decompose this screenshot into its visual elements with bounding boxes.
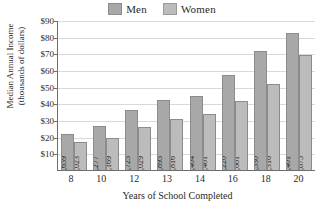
y-axis-title-line-1: Median Annual Income — [5, 0, 16, 141]
x-axis-tick-label: 8 — [68, 173, 73, 184]
y-axis-title-line-2: (thousands of dollars) — [16, 0, 27, 141]
x-axis-tick-label: 12 — [129, 173, 139, 184]
y-axis-tick-label: $30 — [41, 117, 55, 126]
bar-value-label: 26,029 — [138, 156, 145, 170]
y-axis-tick-label: $20 — [41, 133, 55, 142]
y-axis-tick-labels: $10$20$30$40$50$60$70$80$90 — [26, 21, 54, 171]
x-axis-tick-slot: 12 — [129, 173, 139, 187]
y-axis-tick-label: $60 — [41, 67, 55, 76]
legend-label-women: Women — [181, 4, 216, 15]
bar-men[interactable]: 21,659 — [61, 134, 74, 170]
bar-value-label: 57,220 — [222, 156, 229, 170]
bar-women[interactable]: 51,316 — [267, 84, 280, 170]
bar-men[interactable]: 82,401 — [286, 33, 299, 170]
bar-value-label: 26,277 — [93, 156, 100, 170]
bar-men[interactable]: 35,725 — [125, 110, 138, 170]
bar-group: 57,22041,681 — [222, 21, 248, 170]
x-axis-tick-slot: 14 — [195, 173, 205, 187]
bar-men[interactable]: 71,530 — [254, 51, 267, 170]
bar-value-label: 41,681 — [235, 156, 242, 170]
bar-men[interactable]: 41,895 — [157, 100, 170, 170]
legend-swatch-men — [108, 3, 122, 15]
bar-value-label: 21,659 — [61, 156, 68, 170]
bar-value-label: 68,875 — [299, 156, 306, 170]
bar-women[interactable]: 33,481 — [203, 114, 216, 170]
y-axis-tick-label: $70 — [41, 50, 55, 59]
bar-value-label: 44,404 — [190, 156, 197, 170]
bar-value-label: 35,725 — [125, 156, 132, 170]
y-axis-tick-label: $40 — [41, 100, 55, 109]
bar-group: 35,72526,029 — [125, 21, 151, 170]
bar-women[interactable]: 68,875 — [299, 55, 312, 170]
bar-women[interactable]: 26,029 — [138, 127, 151, 170]
bar-value-label: 82,401 — [286, 156, 293, 170]
bar-group: 26,27719,169 — [93, 21, 119, 170]
y-axis-tick-label: $80 — [41, 33, 55, 42]
x-axis-title: Years of School Completed — [40, 190, 315, 201]
x-axis-tick-slot: 13 — [162, 173, 172, 187]
x-axis-tick-slot: 8 — [68, 173, 73, 187]
bar-group: 41,89530,816 — [157, 21, 183, 170]
bar-chart: Men Women Median Annual Income (thousand… — [0, 0, 324, 208]
bar-value-label: 30,816 — [170, 156, 177, 170]
x-axis-tick-slot: 18 — [261, 173, 271, 187]
bar-value-label: 17,023 — [74, 156, 81, 170]
x-axis-tick-label: 20 — [294, 173, 304, 184]
x-axis-tick-label: 14 — [195, 173, 205, 184]
bar-group: 21,65917,023 — [61, 21, 87, 170]
x-axis-tick-slot: 20 — [294, 173, 304, 187]
x-axis-tick-label: 10 — [96, 173, 106, 184]
bar-value-label: 33,481 — [203, 156, 210, 170]
bar-men[interactable]: 26,277 — [93, 126, 106, 170]
bar-group: 82,40168,875 — [286, 21, 312, 170]
bar-value-label: 41,895 — [157, 156, 164, 170]
x-axis-tick-label: 18 — [261, 173, 271, 184]
x-axis-tick-slot: 10 — [96, 173, 106, 187]
bar-group: 71,53051,316 — [254, 21, 280, 170]
y-axis-tick-label: $90 — [41, 17, 55, 26]
legend-swatch-women — [163, 3, 177, 15]
plot-area: 21,65917,02326,27719,16935,72526,02941,8… — [57, 21, 315, 171]
bar-value-label: 51,316 — [267, 156, 274, 170]
x-axis-tick-label: 13 — [162, 173, 172, 184]
y-axis-tick-label: $50 — [41, 83, 55, 92]
bar-women[interactable]: 30,816 — [170, 119, 183, 170]
x-axis-tick-slot: 16 — [228, 173, 238, 187]
bar-group: 44,40433,481 — [190, 21, 216, 170]
bar-value-label: 71,530 — [254, 156, 261, 170]
legend-entry-women: Women — [163, 3, 216, 15]
bar-men[interactable]: 44,404 — [190, 96, 203, 170]
bar-women[interactable]: 41,681 — [235, 101, 248, 170]
bar-women[interactable]: 17,023 — [74, 142, 87, 170]
bar-value-label: 19,169 — [106, 156, 113, 170]
x-axis-tick-labels: 810121314161820 — [57, 173, 315, 187]
legend-label-men: Men — [126, 4, 147, 15]
bar-men[interactable]: 57,220 — [222, 75, 235, 170]
x-axis-tick-label: 16 — [228, 173, 238, 184]
bar-groups: 21,65917,02326,27719,16935,72526,02941,8… — [58, 21, 315, 170]
y-axis-tick-label: $10 — [41, 150, 55, 159]
bar-women[interactable]: 19,169 — [106, 138, 119, 170]
legend-entry-men: Men — [108, 3, 147, 15]
